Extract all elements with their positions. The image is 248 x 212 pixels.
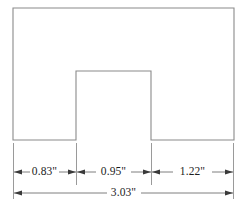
- dimension-overall-width: 3.03": [14, 186, 233, 198]
- dimension-label-right-flange: 1.22": [180, 165, 205, 177]
- technical-drawing-canvas: 0.83" 0.95" 1.22" 3.03": [0, 0, 248, 212]
- dimension-center-notch: 0.95": [77, 165, 151, 177]
- dimension-left-flange: 0.83": [14, 165, 76, 177]
- dimension-label-center-notch: 0.95": [101, 165, 126, 177]
- arrow-head-right-flange-end: [225, 169, 233, 174]
- drawing-svg: 0.83" 0.95" 1.22" 3.03": [0, 0, 248, 212]
- dimension-right-flange: 1.22": [152, 165, 233, 177]
- arrow-head-center-notch-end: [143, 169, 151, 174]
- arrow-head-overall-start: [14, 190, 22, 195]
- arrow-head-center-notch-start: [77, 169, 85, 174]
- dimension-label-left-flange: 0.83": [32, 165, 57, 177]
- dimension-label-overall-width: 3.03": [111, 186, 136, 198]
- part-outline-notched-rectangle: [13, 8, 234, 140]
- arrow-head-left-flange-end: [68, 169, 76, 174]
- arrow-head-left-flange-start: [14, 169, 22, 174]
- arrow-head-right-flange-start: [152, 169, 160, 174]
- arrow-head-overall-end: [225, 190, 233, 195]
